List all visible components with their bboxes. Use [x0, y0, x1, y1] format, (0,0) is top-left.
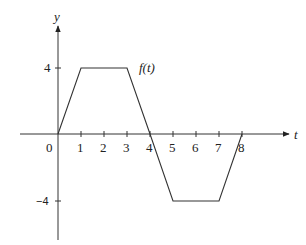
x-tick-label-7: 7	[215, 140, 222, 155]
x-tick-label-4: 4	[146, 140, 153, 155]
x-tick-label-1: 1	[77, 140, 84, 155]
curve-label: f(t)	[139, 60, 155, 75]
y-tick-label-neg4: −4	[36, 195, 49, 207]
x-axis-label: t	[294, 127, 298, 142]
y-tick-label-4: 4	[44, 60, 51, 75]
y-axis-label: y	[52, 9, 60, 24]
chart-svg: y t 0 4 −4 1 2 3 4 5 6 7 8 f(t)	[0, 0, 306, 245]
origin-label: 0	[46, 140, 53, 155]
x-tick-label-5: 5	[169, 140, 176, 155]
x-tick-label-3: 3	[123, 140, 130, 155]
x-tick-label-2: 2	[100, 140, 107, 155]
x-tick-label-6: 6	[192, 140, 199, 155]
